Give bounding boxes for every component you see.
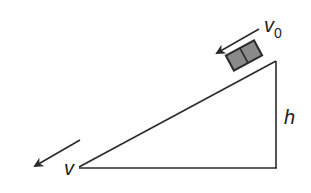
height-label: h: [284, 106, 295, 128]
incline-diagram: v0 v h: [0, 0, 311, 193]
initial-velocity-label: v0: [264, 14, 282, 41]
incline-slope: [79, 61, 276, 167]
inclined-plane: [79, 61, 277, 168]
final-velocity-label: v: [64, 157, 75, 179]
